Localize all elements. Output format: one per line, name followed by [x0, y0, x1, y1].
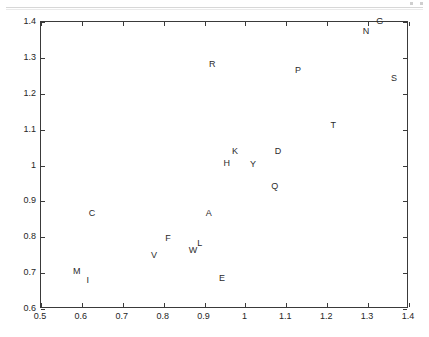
y-axis-tick — [41, 237, 45, 238]
y-axis-tick-label: 1.3 — [23, 51, 36, 62]
data-point-label-y: Y — [250, 159, 256, 168]
data-point-label-i: I — [87, 276, 90, 285]
x-axis-tick-label: 0.7 — [116, 311, 129, 322]
x-axis-tick-label: 1.4 — [402, 311, 415, 322]
data-point-label-e: E — [219, 273, 225, 282]
x-axis-tick — [205, 303, 206, 307]
data-point-label-f: F — [165, 234, 171, 243]
y-axis-tick-right — [403, 166, 407, 167]
x-axis-tick-top — [245, 22, 246, 26]
data-point-label-d: D — [275, 146, 282, 155]
data-point-label-q: Q — [271, 182, 278, 191]
y-axis-tick-right — [403, 273, 407, 274]
x-axis-tick-label: 0.8 — [156, 311, 169, 322]
data-point-label-l: L — [197, 239, 202, 248]
y-axis-tick-right — [403, 130, 407, 131]
x-axis-tick — [245, 303, 246, 307]
x-axis-tick — [327, 303, 328, 307]
x-axis-tick — [82, 303, 83, 307]
y-axis-tick-label: 1.2 — [23, 87, 36, 98]
data-point-label-h: H — [224, 159, 231, 168]
data-point-label-t: T — [330, 121, 336, 130]
data-point-label-v: V — [151, 250, 157, 259]
data-point-label-r: R — [209, 60, 216, 69]
x-axis-tick-top — [205, 22, 206, 26]
x-axis-tick-label: 0.6 — [75, 311, 88, 322]
x-axis-tick-label: 1.2 — [320, 311, 333, 322]
data-point-label-g: G — [376, 17, 383, 26]
data-point-label-a: A — [206, 208, 212, 217]
y-axis-tick — [41, 22, 45, 23]
y-axis-tick-label: 0.8 — [23, 231, 36, 242]
y-axis-tick-right — [403, 237, 407, 238]
data-point-label-w: W — [189, 245, 198, 254]
x-axis-tick-top — [327, 22, 328, 26]
data-point-label-m: M — [73, 267, 81, 276]
data-point-label-k: K — [232, 146, 238, 155]
data-point-label-n: N — [363, 27, 370, 36]
x-axis-tick-top — [164, 22, 165, 26]
y-axis-tick-label: 1.1 — [23, 123, 36, 134]
y-axis-tick-right — [403, 58, 407, 59]
y-axis-tick — [41, 166, 45, 167]
x-axis-tick-top — [82, 22, 83, 26]
y-axis-tick — [41, 130, 45, 131]
y-axis-tick — [41, 94, 45, 95]
x-axis-tick — [41, 303, 42, 307]
y-axis-tick-right — [403, 309, 407, 310]
x-axis-tick — [409, 303, 410, 307]
x-axis-tick — [164, 303, 165, 307]
x-axis-tick — [368, 303, 369, 307]
scan-artifact-line-secondary — [6, 9, 423, 10]
x-axis-tick-label: 1.3 — [361, 311, 374, 322]
y-axis-tick-label: 0.7 — [23, 267, 36, 278]
x-axis-tick — [286, 303, 287, 307]
y-axis-tick-label: 1.4 — [23, 16, 36, 27]
data-point-label-c: C — [89, 208, 96, 217]
y-axis-tick-right — [403, 201, 407, 202]
scan-artifact-mark-left — [410, 2, 413, 5]
y-axis-tick — [41, 273, 45, 274]
x-axis-tick-top — [286, 22, 287, 26]
scatter-plot-figure: 0.50.60.70.80.911.11.21.31.40.60.70.80.9… — [0, 0, 429, 337]
y-axis-tick — [41, 309, 45, 310]
x-axis-tick-label: 0.9 — [197, 311, 210, 322]
x-axis-tick-label: 1 — [242, 311, 247, 322]
x-axis-tick-top — [409, 22, 410, 26]
scan-artifact-line — [6, 7, 423, 8]
y-axis-tick-label: 0.9 — [23, 195, 36, 206]
y-axis-tick-right — [403, 94, 407, 95]
scan-artifact-mark-right — [420, 2, 423, 5]
x-axis-tick-label: 1.1 — [279, 311, 292, 322]
y-axis-tick — [41, 58, 45, 59]
y-axis-tick-label: 1 — [31, 159, 36, 170]
data-point-label-s: S — [391, 73, 397, 82]
y-axis-tick — [41, 201, 45, 202]
x-axis-tick — [123, 303, 124, 307]
data-point-label-p: P — [295, 65, 301, 74]
x-axis-tick-top — [123, 22, 124, 26]
y-axis-tick-label: 0.6 — [23, 303, 36, 314]
y-axis-tick-right — [403, 22, 407, 23]
